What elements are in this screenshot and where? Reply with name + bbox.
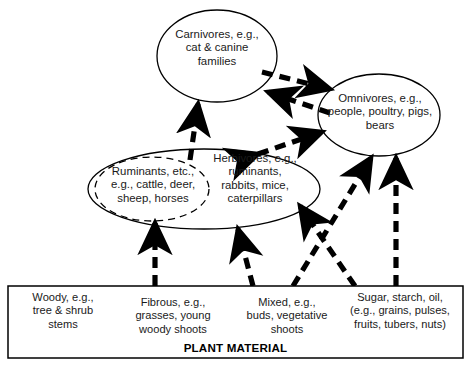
food-web-diagram: Carnivores, e.g.,cat & caninefamilies Om… (0, 0, 471, 369)
plant-material-cell-fibrous: Fibrous, e.g.,grasses, youngwoody shoots (115, 296, 231, 336)
edge-herbivores-omnivores (258, 132, 322, 154)
omnivores-ellipse (318, 74, 440, 156)
carnivores-ellipse (157, 10, 277, 102)
plant-material-title: PLANT MATERIAL (8, 341, 463, 354)
edge-mixed-to-herbivores (238, 229, 253, 286)
ruminants-ellipse (95, 157, 209, 221)
plant-material-cell-mixed: Mixed, e.g.,buds, vegetativeshoots (232, 296, 342, 336)
edge-sugar-to-herbivores (300, 206, 355, 286)
edge-carnivores-to-omnivores (262, 72, 330, 89)
plant-material-cell-sugar: Sugar, starch, oil,(e.g., grains, pulses… (338, 291, 462, 331)
plant-material-cell-woody: Woody, e.g.,tree & shrubstems (10, 291, 116, 331)
